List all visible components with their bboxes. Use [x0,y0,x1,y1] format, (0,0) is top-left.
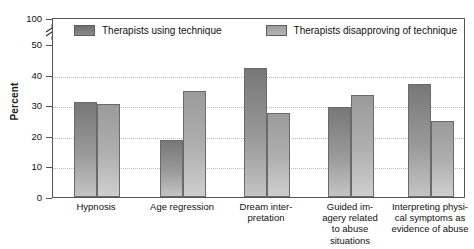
bar [408,84,431,197]
y-tick-label: 10 [0,162,42,172]
bar [431,121,454,198]
bar [74,102,97,197]
bar [351,95,374,198]
bar [328,107,351,197]
y-tick-label: 40 [0,71,42,81]
bar [97,104,120,197]
legend-swatch-series-b [266,25,287,36]
x-axis-label: Dream inter-pretation [223,201,309,223]
y-tick-mark [46,198,52,199]
plot-area [52,18,465,198]
bar [183,91,206,197]
bar [244,68,267,197]
bar-group [408,19,454,197]
y-tick-label: 100 [0,14,42,24]
legend-swatch-series-a [74,25,95,36]
bar-group [328,19,374,197]
chart-legend: Therapists using technique Therapists di… [52,19,465,41]
y-tick-label: 20 [0,132,42,142]
legend-label-series-a: Therapists using technique [102,25,222,36]
legend-item-series-a: Therapists using technique [74,25,222,36]
x-axis-label: Interpreting physi-cal symptoms aseviden… [380,201,474,235]
y-tick-label: 30 [0,101,42,111]
bar [267,113,290,197]
y-tick-label: 0 [0,193,42,203]
x-axis-label: Age regression [134,201,230,212]
bar-chart: Percent 10050403020100 Therapists using … [0,0,474,249]
bar-group [244,19,290,197]
y-tick-label: 50 [0,40,42,50]
bar [160,140,183,197]
bar-group [160,19,206,197]
bar-group [74,19,120,197]
legend-item-series-b: Therapists disapproving of technique [266,25,457,36]
bars-layer [53,19,464,197]
x-axis-label: Hypnosis [56,201,136,212]
legend-label-series-b: Therapists disapproving of technique [294,25,457,36]
